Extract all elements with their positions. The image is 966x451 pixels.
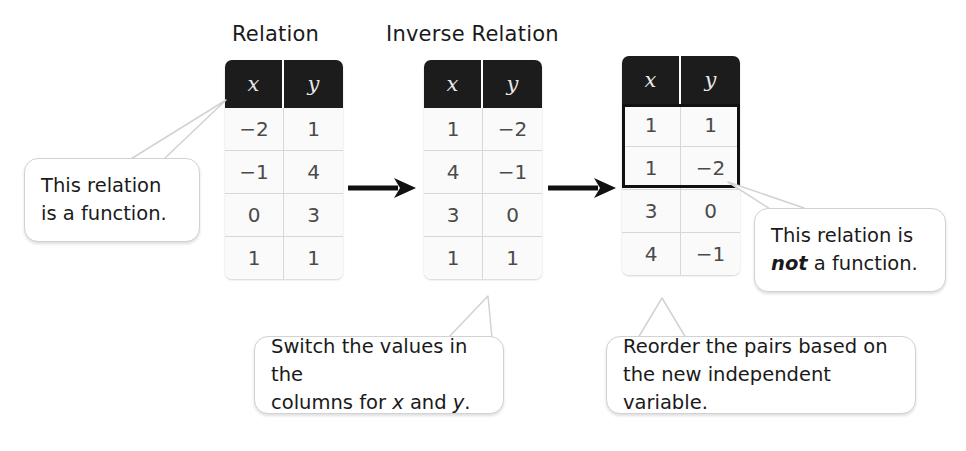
column-header-x: x	[225, 60, 284, 108]
cell-x: 0	[225, 194, 284, 237]
reordered-relation-table: x y 1 1 1 −2 3 0 4 −1	[622, 56, 740, 275]
table-row: 1 1	[622, 104, 740, 147]
table-header-row: x y	[622, 56, 740, 104]
cell-x: 3	[424, 194, 483, 237]
callout-line-2: the new independent variable.	[623, 363, 831, 414]
callout-line-2-pre: columns for	[271, 391, 392, 414]
cell-y: 1	[483, 237, 542, 279]
table-row: 3 0	[622, 190, 740, 233]
cell-y: 1	[681, 104, 740, 147]
cell-x: −1	[225, 151, 284, 194]
table-row: 1 1	[225, 237, 343, 279]
column-header-x: x	[424, 60, 483, 108]
table-header-row: x y	[225, 60, 343, 108]
cell-x: 1	[622, 104, 681, 147]
emphasis-not: not	[771, 252, 808, 275]
callout-line-1: This relation	[41, 174, 161, 197]
cell-y: −1	[681, 233, 740, 275]
column-header-y: y	[284, 60, 343, 108]
column-header-x: x	[622, 56, 681, 104]
table-row: 1 1	[424, 237, 542, 279]
variable-x: x	[392, 391, 404, 414]
callout-line-1: This relation is	[771, 224, 913, 247]
callout-line-1: Reorder the pairs based on	[623, 335, 888, 358]
cell-y: 4	[284, 151, 343, 194]
relation-table: x y −2 1 −1 4 0 3 1 1	[225, 60, 343, 279]
cell-y: −2	[483, 108, 542, 151]
cell-y: 0	[483, 194, 542, 237]
cell-x: 3	[622, 190, 681, 233]
cell-y: −1	[483, 151, 542, 194]
table-row: 1 −2	[424, 108, 542, 151]
callout-text: Switch the values in the columns for x a…	[255, 333, 503, 416]
figure-canvas: Relation Inverse Relation x y −2 1 −1 4 …	[0, 0, 966, 451]
table-row: 3 0	[424, 194, 542, 237]
variable-y: y	[453, 391, 465, 414]
cell-y: −2	[681, 147, 740, 190]
callout-line-2-mid: and	[404, 391, 453, 414]
arrow-relation-to-inverse	[348, 174, 416, 206]
table-row: −2 1	[225, 108, 343, 151]
cell-x: 1	[424, 108, 483, 151]
callout-reorder-pairs: Reorder the pairs based on the new indep…	[606, 336, 916, 414]
inverse-relation-title: Inverse Relation	[386, 22, 559, 46]
cell-x: −2	[225, 108, 284, 151]
table-row: −1 4	[225, 151, 343, 194]
callout-text: This relation is not a function.	[755, 222, 945, 277]
arrow-inverse-to-reordered	[548, 174, 616, 206]
callout-relation-is-function: This relation is a function.	[24, 158, 200, 242]
cell-y: 3	[284, 194, 343, 237]
inverse-relation-table: x y 1 −2 4 −1 3 0 1 1	[424, 60, 542, 279]
callout-line-1: Switch the values in the	[271, 335, 467, 386]
callout-relation-not-function: This relation is not a function.	[754, 208, 946, 292]
table-header-row: x y	[424, 60, 542, 108]
callout-text: Reorder the pairs based on the new indep…	[607, 333, 915, 416]
column-header-y: y	[483, 60, 542, 108]
callout-line-2: is a function.	[41, 202, 167, 225]
callout-line-2-post: a function.	[808, 252, 918, 275]
column-header-y: y	[681, 56, 740, 104]
cell-x: 1	[424, 237, 483, 279]
relation-title: Relation	[232, 22, 319, 46]
callout-line-2-post: .	[464, 391, 470, 414]
cell-y: 1	[284, 108, 343, 151]
cell-x: 4	[424, 151, 483, 194]
table-row: 1 −2	[622, 147, 740, 190]
cell-x: 4	[622, 233, 681, 275]
cell-x: 1	[225, 237, 284, 279]
callout-text: This relation is a function.	[25, 172, 199, 227]
table-row: 4 −1	[424, 151, 542, 194]
cell-x: 1	[622, 147, 681, 190]
table-row: 0 3	[225, 194, 343, 237]
callout-switch-values: Switch the values in the columns for x a…	[254, 336, 504, 414]
cell-y: 1	[284, 237, 343, 279]
table-row: 4 −1	[622, 233, 740, 275]
cell-y: 0	[681, 190, 740, 233]
